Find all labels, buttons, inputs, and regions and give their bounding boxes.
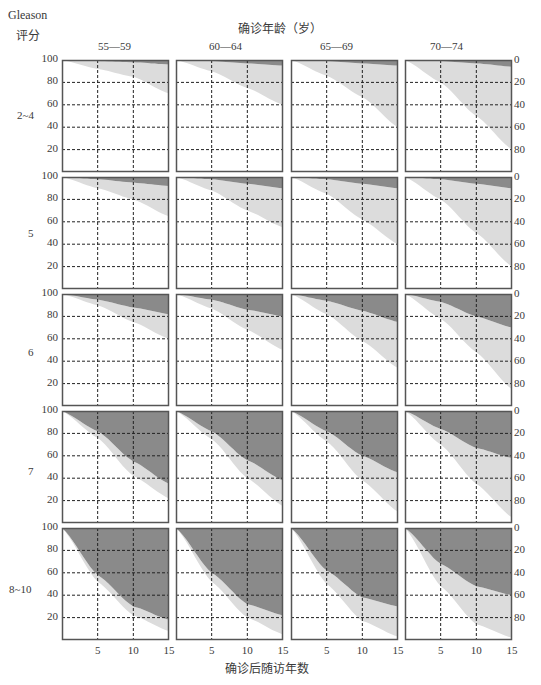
panel-plot <box>62 177 169 289</box>
panel-plot <box>405 294 512 406</box>
other-cause-death-area <box>291 60 398 127</box>
row-label-8-10: 8~10 <box>9 583 31 595</box>
panel-row0-col1 <box>176 60 283 172</box>
y-tick-right: 40 <box>514 215 538 227</box>
x-tick: 10 <box>352 644 372 656</box>
row-label-6: 6 <box>28 346 34 358</box>
panel-row3-col3 <box>405 411 512 523</box>
y-tick-left: 100 <box>34 286 58 298</box>
x-tick: 15 <box>388 644 408 656</box>
x-tick: 5 <box>317 644 337 656</box>
panel-row3-col0 <box>62 411 169 523</box>
x-tick: 15 <box>159 644 179 656</box>
col-label-55-59: 55—59 <box>98 40 131 52</box>
y-tick-left: 40 <box>34 470 58 482</box>
y-tick-right: 60 <box>514 354 538 366</box>
y-tick-left: 40 <box>34 236 58 248</box>
y-tick-right: 60 <box>514 120 538 132</box>
panel-plot <box>291 177 398 289</box>
panel-row4-col3 <box>405 528 512 640</box>
x-tick: 10 <box>123 644 143 656</box>
panel-plot <box>176 528 283 640</box>
y-tick-right: 20 <box>514 192 538 204</box>
cancer-death-area <box>176 528 283 615</box>
y-tick-right: 20 <box>514 75 538 87</box>
panel-row0-col0 <box>62 60 169 172</box>
y-tick-left: 40 <box>34 353 58 365</box>
row-label-2-4: 2~4 <box>17 109 34 121</box>
y-tick-right: 0 <box>514 404 538 416</box>
y-tick-right: 40 <box>514 332 538 344</box>
panel-row1-col1 <box>176 177 283 289</box>
panel-row4-col0 <box>62 528 169 640</box>
y-tick-right: 20 <box>514 426 538 438</box>
y-tick-left: 60 <box>34 331 58 343</box>
panel-plot <box>176 177 283 289</box>
x-tick: 5 <box>202 644 222 656</box>
x-tick: 15 <box>273 644 293 656</box>
panel-row0-col3 <box>405 60 512 172</box>
cancer-death-area <box>62 528 169 620</box>
row-label-5: 5 <box>28 227 34 239</box>
y-tick-right: 40 <box>514 98 538 110</box>
y-tick-right: 60 <box>514 588 538 600</box>
y-tick-right: 40 <box>514 566 538 578</box>
panel-row2-col1 <box>176 294 283 406</box>
panel-row2-col0 <box>62 294 169 406</box>
other-cause-death-area <box>62 60 169 94</box>
y-tick-left: 20 <box>34 610 58 622</box>
y-tick-left: 80 <box>34 308 58 320</box>
other-cause-death-area <box>291 177 398 244</box>
panel-plot <box>291 60 398 172</box>
y-tick-right: 20 <box>514 309 538 321</box>
panel-row1-col0 <box>62 177 169 289</box>
y-tick-left: 60 <box>34 565 58 577</box>
y-tick-right: 0 <box>514 53 538 65</box>
y-tick-right: 60 <box>514 471 538 483</box>
y-tick-left: 100 <box>34 403 58 415</box>
col-label-70-74: 70—74 <box>430 40 463 52</box>
row-label-7: 7 <box>28 465 34 477</box>
y-tick-left: 40 <box>34 587 58 599</box>
panel-plot <box>405 528 512 640</box>
y-tick-right: 60 <box>514 237 538 249</box>
y-tick-left: 60 <box>34 97 58 109</box>
y-tick-left: 60 <box>34 214 58 226</box>
y-tick-left: 80 <box>34 425 58 437</box>
panel-row2-col3 <box>405 294 512 406</box>
col-label-60-64: 60—64 <box>209 40 242 52</box>
panel-plot <box>176 411 283 523</box>
y-tick-left: 20 <box>34 259 58 271</box>
panel-plot <box>176 294 283 406</box>
panel-plot <box>405 177 512 289</box>
y-tick-right: 0 <box>514 521 538 533</box>
panel-row1-col3 <box>405 177 512 289</box>
col-axis-title: 确诊年龄（岁） <box>238 19 322 37</box>
y-tick-left: 20 <box>34 376 58 388</box>
y-tick-right: 80 <box>514 494 538 506</box>
x-tick: 15 <box>502 644 522 656</box>
y-tick-left: 20 <box>34 493 58 505</box>
y-tick-left: 80 <box>34 74 58 86</box>
y-tick-left: 60 <box>34 448 58 460</box>
panel-plot <box>291 411 398 523</box>
panel-plot <box>405 411 512 523</box>
panel-plot <box>291 528 398 640</box>
panel-plot <box>62 411 169 523</box>
panel-row0-col2 <box>291 60 398 172</box>
panel-row4-col1 <box>176 528 283 640</box>
y-tick-left: 100 <box>34 52 58 64</box>
y-tick-right: 80 <box>514 260 538 272</box>
y-tick-right: 0 <box>514 170 538 182</box>
y-tick-right: 80 <box>514 377 538 389</box>
col-label-65-69: 65—69 <box>320 40 353 52</box>
panel-plot <box>62 294 169 406</box>
y-tick-right: 40 <box>514 449 538 461</box>
y-tick-left: 20 <box>34 142 58 154</box>
x-tick: 10 <box>237 644 257 656</box>
x-tick: 10 <box>466 644 486 656</box>
x-tick: 5 <box>88 644 108 656</box>
panel-plot <box>62 528 169 640</box>
row-axis-title-line1: Gleason <box>8 8 47 23</box>
y-tick-left: 80 <box>34 542 58 554</box>
